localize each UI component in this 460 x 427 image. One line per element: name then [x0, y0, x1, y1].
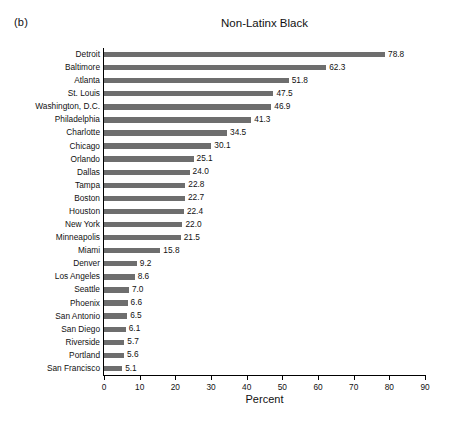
- bar: [104, 52, 385, 57]
- bar-value-label: 6.5: [130, 309, 142, 322]
- category-label: Tampa: [75, 179, 100, 192]
- bar-row: Los Angeles8.6: [104, 270, 425, 283]
- bar-value-label: 34.5: [230, 126, 246, 139]
- bar-value-label: 25.1: [197, 152, 213, 165]
- bar-row: Tampa22.8: [104, 179, 425, 192]
- x-tick-mark: [140, 375, 141, 380]
- category-label: Charlotte: [66, 126, 100, 139]
- bar: [104, 65, 326, 70]
- x-tick-label: 60: [313, 382, 322, 392]
- bar: [104, 300, 128, 305]
- bar-row: Boston22.7: [104, 192, 425, 205]
- x-tick-label: 80: [385, 382, 394, 392]
- bar: [104, 209, 184, 214]
- bar-value-label: 5.1: [125, 362, 137, 375]
- bar: [104, 156, 194, 161]
- bar-value-label: 21.5: [184, 231, 200, 244]
- x-tick-mark: [247, 375, 248, 380]
- x-tick-label: 50: [278, 382, 287, 392]
- bar-value-label: 62.3: [329, 61, 345, 74]
- bar-value-label: 41.3: [254, 113, 270, 126]
- bar-row: San Francisco5.1: [104, 362, 425, 375]
- bar: [104, 143, 211, 148]
- bar: [104, 327, 126, 332]
- bar-row: St. Louis47.5: [104, 87, 425, 100]
- category-label: Phoenix: [70, 297, 100, 310]
- bar-value-label: 5.6: [127, 348, 139, 361]
- bar-value-label: 51.8: [292, 74, 308, 87]
- bar-row: Minneapolis21.5: [104, 231, 425, 244]
- category-label: Houston: [69, 205, 100, 218]
- x-axis-line: [103, 375, 425, 376]
- bar-value-label: 46.9: [274, 100, 290, 113]
- bar: [104, 248, 160, 253]
- bar: [104, 313, 127, 318]
- category-label: Denver: [73, 257, 100, 270]
- figure-panel: (b) Non-Latinx Black Detroit78.8Baltimor…: [0, 0, 460, 427]
- x-tick-label: 30: [206, 382, 215, 392]
- bar-row: Portland5.6: [104, 349, 425, 362]
- bar-row: Detroit78.8: [104, 48, 425, 61]
- bar-row: Philadelphia41.3: [104, 113, 425, 126]
- x-tick-label: 90: [420, 382, 429, 392]
- bar: [104, 222, 182, 227]
- x-tick-label: 10: [135, 382, 144, 392]
- x-tick-mark: [389, 375, 390, 380]
- bar-value-label: 24.0: [193, 165, 209, 178]
- bar-row: Seattle7.0: [104, 283, 425, 296]
- bar-row: Dallas24.0: [104, 166, 425, 179]
- x-tick-label: 70: [349, 382, 358, 392]
- bar-row: Atlanta51.8: [104, 74, 425, 87]
- category-label: Dallas: [77, 166, 100, 179]
- category-label: Orlando: [70, 153, 100, 166]
- bar-value-label: 15.8: [163, 244, 179, 257]
- bar-row: Baltimore62.3: [104, 61, 425, 74]
- bar: [104, 196, 185, 201]
- bar-row: Orlando25.1: [104, 153, 425, 166]
- panel-label: (b): [14, 16, 28, 28]
- x-tick-label: 40: [242, 382, 251, 392]
- bar-value-label: 8.6: [138, 270, 150, 283]
- bar-value-label: 6.6: [131, 296, 143, 309]
- bar: [104, 235, 181, 240]
- category-label: Minneapolis: [56, 231, 100, 244]
- bar: [104, 287, 129, 292]
- x-tick-label: 20: [171, 382, 180, 392]
- bar: [104, 274, 135, 279]
- category-label: Miami: [78, 244, 100, 257]
- bar: [104, 130, 227, 135]
- plot-area: Detroit78.8Baltimore62.3Atlanta51.8St. L…: [104, 48, 425, 375]
- bar: [104, 170, 190, 175]
- bar: [104, 183, 185, 188]
- x-tick-mark: [318, 375, 319, 380]
- category-label: Atlanta: [74, 74, 100, 87]
- x-axis-title: Percent: [104, 393, 425, 405]
- category-label: San Francisco: [47, 362, 100, 375]
- category-label: Baltimore: [65, 61, 100, 74]
- bar: [104, 353, 124, 358]
- bar: [104, 78, 289, 83]
- category-label: New York: [65, 218, 100, 231]
- bar-value-label: 5.7: [127, 335, 139, 348]
- category-label: Chicago: [70, 140, 100, 153]
- bar-row: Phoenix6.6: [104, 297, 425, 310]
- x-tick-mark: [354, 375, 355, 380]
- category-label: Riverside: [65, 336, 100, 349]
- category-label: Boston: [74, 192, 100, 205]
- bar-value-label: 7.0: [132, 283, 144, 296]
- x-tick-mark: [175, 375, 176, 380]
- bar-row: San Diego6.1: [104, 323, 425, 336]
- bar-row: Charlotte34.5: [104, 126, 425, 139]
- bar: [104, 366, 122, 371]
- bar-value-label: 47.5: [276, 87, 292, 100]
- bar-row: Denver9.2: [104, 257, 425, 270]
- bar: [104, 104, 271, 109]
- category-label: Portland: [69, 349, 100, 362]
- x-tick-mark: [104, 375, 105, 380]
- bar-value-label: 6.1: [129, 322, 141, 335]
- category-label: San Diego: [61, 323, 100, 336]
- x-tick-mark: [425, 375, 426, 380]
- bar-value-label: 22.4: [187, 205, 203, 218]
- bar: [104, 340, 124, 345]
- bar-value-label: 9.2: [140, 257, 152, 270]
